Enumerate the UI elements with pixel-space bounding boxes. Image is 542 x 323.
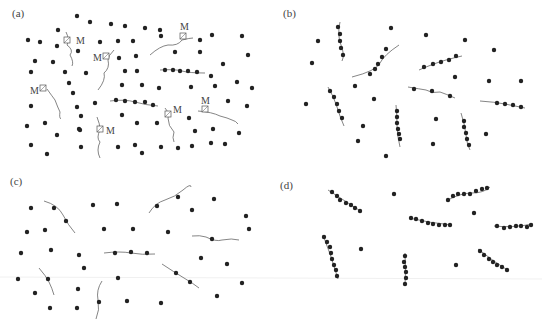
free-particle	[29, 206, 33, 210]
free-particle	[133, 143, 137, 147]
monomer-chain: M	[165, 104, 182, 142]
particle-chain	[408, 87, 455, 98]
free-particle	[392, 192, 396, 196]
bound-particle	[420, 219, 424, 223]
bound-particle	[338, 32, 342, 36]
particle-chain	[328, 87, 344, 126]
free-particle	[173, 50, 177, 54]
bound-particle	[338, 39, 342, 43]
bound-particle	[480, 187, 484, 191]
bound-particle	[448, 223, 452, 227]
free-particle	[38, 40, 42, 44]
free-particle	[116, 39, 120, 43]
bound-particle	[514, 224, 518, 228]
bound-particle	[155, 204, 159, 208]
free-particle	[519, 79, 523, 83]
monomer-chain: M	[64, 32, 85, 66]
bound-particle	[335, 102, 339, 106]
free-particle	[316, 39, 320, 43]
free-particle	[25, 124, 29, 128]
free-particle	[123, 69, 127, 73]
free-particle	[43, 121, 47, 125]
particle-chain	[402, 253, 408, 286]
free-particle	[25, 230, 29, 234]
free-particle	[79, 114, 83, 118]
bound-particle	[373, 67, 377, 71]
bound-particle	[97, 300, 101, 304]
free-particle	[33, 59, 37, 63]
free-particle	[198, 50, 202, 54]
bound-particle	[402, 260, 406, 264]
free-particle	[190, 208, 194, 212]
particle-chain	[39, 268, 54, 295]
bound-particle	[491, 260, 495, 264]
polymer-chain-line	[352, 45, 399, 77]
bound-particle	[454, 54, 458, 58]
free-particle	[453, 75, 457, 79]
particle-chain	[44, 201, 75, 233]
free-particle	[143, 26, 147, 30]
free-particle	[356, 139, 360, 143]
bound-particle	[431, 62, 435, 66]
particle-chain	[160, 68, 205, 74]
figure-canvas: (a)MMMMMMM(b)(c)(d)	[0, 0, 542, 323]
bound-particle	[338, 198, 342, 202]
bound-particle	[468, 192, 472, 196]
bound-particle	[335, 194, 339, 198]
bound-particle	[397, 132, 401, 136]
bound-particle	[171, 68, 175, 72]
particle-chain	[446, 186, 490, 202]
bound-particle	[129, 250, 133, 254]
monomer-label: M	[76, 35, 85, 46]
bound-particle	[443, 223, 447, 227]
bound-particle	[426, 221, 430, 225]
bound-particle	[451, 194, 455, 198]
free-particle	[76, 287, 80, 291]
bound-particle	[163, 68, 167, 72]
bound-particle	[403, 282, 407, 286]
monomer-chain: M	[198, 95, 238, 124]
bound-particle	[395, 109, 399, 113]
panel-label: (a)	[12, 7, 25, 20]
bound-particle	[188, 280, 192, 284]
free-particle	[82, 266, 86, 270]
particle-chain	[419, 54, 462, 70]
bound-particle	[447, 58, 451, 62]
free-particle	[209, 141, 213, 145]
monomer-label: M	[30, 85, 39, 96]
bound-particle	[339, 46, 343, 50]
bound-particle	[462, 119, 466, 123]
free-particle	[199, 256, 203, 260]
particle-chain	[478, 249, 509, 272]
bound-particle	[422, 65, 426, 69]
free-particle	[98, 40, 102, 44]
monomer-label: M	[93, 52, 102, 63]
free-particle	[431, 142, 435, 146]
bound-particle	[467, 143, 471, 147]
bound-particle	[349, 203, 353, 207]
bound-particle	[113, 251, 117, 255]
free-particle	[84, 71, 88, 75]
bound-particle	[495, 101, 499, 105]
free-particle	[247, 227, 251, 231]
free-particle	[116, 276, 120, 280]
bound-particle	[133, 100, 137, 104]
free-particle	[75, 105, 79, 109]
bound-particle	[178, 69, 182, 73]
polymer-chain-line	[198, 111, 238, 124]
bound-particle	[474, 189, 478, 193]
bound-particle	[478, 249, 482, 253]
free-particle	[131, 39, 135, 43]
panel-c: (c)	[10, 175, 251, 319]
bound-particle	[380, 55, 384, 59]
free-particle	[223, 142, 227, 146]
free-particle	[55, 44, 59, 48]
bound-particle	[330, 257, 334, 261]
bound-particle	[396, 127, 400, 131]
particle-chain	[328, 190, 362, 213]
free-particle	[43, 228, 47, 232]
free-particle	[210, 33, 214, 37]
particle-chain	[395, 105, 402, 147]
free-particle	[131, 227, 135, 231]
free-particle	[140, 151, 144, 155]
